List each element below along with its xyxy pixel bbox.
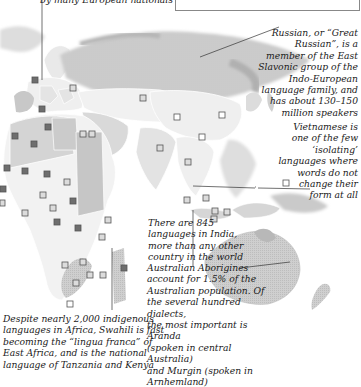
note-line: has about 130–150: [248, 95, 358, 106]
note-line: Vietnamese is: [258, 121, 358, 132]
land-southeast-asia: [176, 137, 214, 196]
note-russian: Russian, or “Great Russian”, is a member…: [248, 27, 358, 118]
note-line: language family, and: [248, 84, 358, 95]
top-frame: [175, 0, 360, 11]
note-line: Indo-European: [248, 73, 358, 84]
note-line: Slavonic group of the: [248, 61, 358, 72]
note-line: ‘isolating’: [258, 144, 358, 155]
land-iberia-uk: [14, 91, 34, 112]
land-india: [136, 128, 176, 190]
note-australia: Australian Aborigines account for 1.5% o…: [147, 262, 277, 387]
land-arctic-west: [0, 26, 45, 52]
note-line: Russian”, is a: [248, 38, 358, 49]
note-line: change their: [258, 178, 358, 189]
note-line: words do not: [258, 167, 358, 178]
note-line: Russian, or “Great: [248, 27, 358, 38]
note-line: country in the world: [148, 251, 258, 262]
note-vietnamese: Vietnamese is one of the few ‘isolating’…: [258, 121, 358, 201]
note-line: Arnhemland): [147, 376, 277, 387]
note-line: member of the East: [248, 50, 358, 61]
note-line: one of the few: [258, 132, 358, 143]
note-line: (spoken in central Australia): [147, 342, 277, 365]
note-line: the most important is Aranda: [147, 319, 277, 342]
note-line: the several hundred dialects,: [147, 296, 277, 319]
note-line: languages where: [258, 155, 358, 166]
note-line: Australian population. Of: [147, 285, 277, 296]
note-line: Australian Aborigines: [147, 262, 277, 273]
note-line: form at all: [258, 189, 358, 200]
note-india: There are 845 languages in India, more t…: [148, 217, 258, 263]
note-line: account for 1.5% of the: [147, 273, 277, 284]
land-new-zealand: [311, 284, 330, 310]
top-caption: by many European nationals: [40, 0, 173, 5]
note-line: There are 845: [148, 217, 258, 228]
land-madagascar-region: [112, 248, 126, 304]
note-line: and Murgin (spoken in: [147, 365, 277, 376]
note-line: million speakers: [248, 107, 358, 118]
note-line: languages in India,: [148, 228, 258, 239]
note-line: more than any other: [148, 240, 258, 251]
